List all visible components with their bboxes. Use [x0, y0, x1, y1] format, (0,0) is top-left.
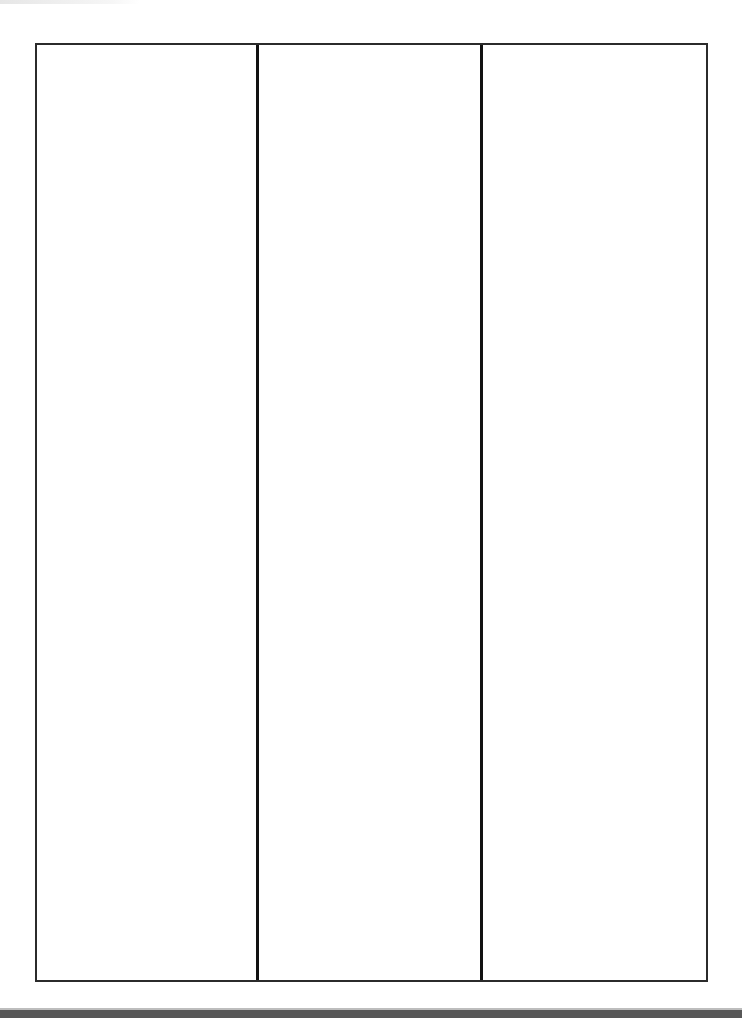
scan-artifact: [0, 0, 140, 4]
table-column-2: [259, 45, 483, 980]
three-column-table: [35, 43, 708, 982]
scan-bottom-band: [0, 1010, 742, 1018]
table-column-1: [37, 45, 259, 980]
table-column-3: [483, 45, 706, 980]
